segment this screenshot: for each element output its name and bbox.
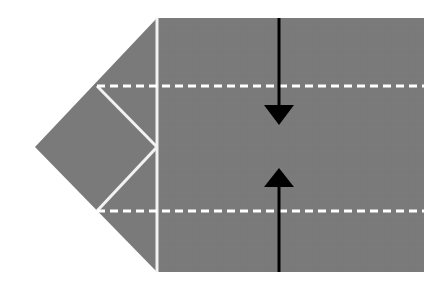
origami-diagram-root bbox=[0, 0, 445, 296]
paper-texture bbox=[157, 18, 424, 272]
origami-fold-diagram bbox=[0, 0, 445, 296]
